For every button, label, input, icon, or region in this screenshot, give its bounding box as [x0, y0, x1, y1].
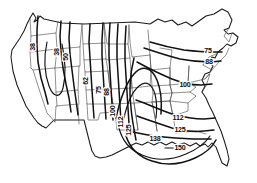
- contour-label-150-15: 150: [174, 144, 185, 152]
- contour-label-38-1: 38: [53, 48, 61, 56]
- contour-label-88-10: 88: [205, 58, 213, 66]
- contour-label-100-6: 100: [109, 105, 117, 116]
- contour-label-100-11: 100: [179, 81, 190, 89]
- contour-label-112-7: 112: [117, 116, 125, 127]
- contour-label-75-4: 75: [95, 86, 103, 94]
- contour-label-62-3: 62: [82, 77, 90, 85]
- contour-map-figure: 3838506275881001121257588100112125138150: [0, 0, 257, 183]
- contour-label-112-12: 112: [173, 114, 184, 122]
- contour-label-75-9: 75: [204, 47, 212, 55]
- contour-label-125-13: 125: [174, 126, 185, 134]
- contour-label-88-5: 88: [103, 88, 111, 96]
- contour-label-138-14: 138: [149, 135, 160, 143]
- contour-label-38-0: 38: [29, 43, 37, 51]
- contour-label-125-8: 125: [125, 124, 133, 135]
- contour-label-50-2: 50: [62, 53, 70, 61]
- map-canvas: 3838506275881001121257588100112125138150: [0, 0, 257, 183]
